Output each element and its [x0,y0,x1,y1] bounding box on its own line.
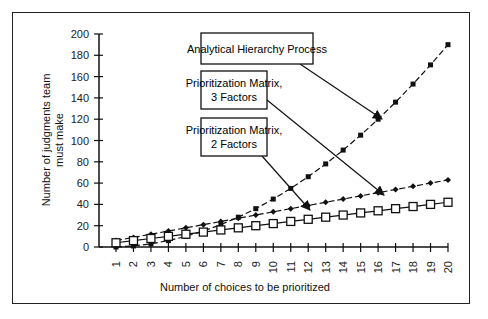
data-point [234,224,242,232]
data-point [270,209,276,215]
series-line [116,45,448,247]
x-axis-title: Number of choices to be prioritized [160,281,330,293]
y-axis: 020406080100120140160180200 [71,28,103,253]
data-point [323,199,329,205]
data-point [164,232,172,240]
data-point [409,203,417,211]
y-tick-label: 40 [77,198,89,210]
data-point [253,212,259,218]
data-point [199,228,207,236]
data-point [253,206,258,211]
x-tick-label: 16 [372,261,384,273]
x-tick-label: 10 [267,261,279,273]
y-tick-label: 180 [71,49,89,61]
series-ahp [114,42,451,249]
data-point [147,234,155,242]
data-point [392,205,400,213]
data-point [322,213,330,221]
data-point [340,196,346,202]
data-point [428,180,434,186]
data-point [445,177,451,183]
y-tick-label: 20 [77,220,89,232]
data-point [217,226,225,234]
data-point [182,230,190,238]
data-point [112,239,120,247]
y-tick-label: 200 [71,28,89,40]
callout-pm2: Prioritization Matrix,2 Factors [186,118,310,210]
data-point [411,82,416,87]
y-tick-label: 140 [71,92,89,104]
x-tick-label: 14 [337,261,349,273]
series-pm3 [113,177,451,244]
data-point [358,193,364,199]
data-point [444,198,452,206]
data-point [129,237,137,245]
x-tick-label: 17 [390,261,402,273]
data-point [306,174,311,179]
x-tick-label: 15 [355,261,367,273]
x-axis: 1234567891011121314151617181920 [99,243,454,273]
x-tick-label: 20 [442,261,454,273]
x-tick-label: 6 [197,261,209,267]
callout-label: Analytical Hierarchy Process [187,43,327,55]
data-point [358,133,363,138]
x-tick-label: 2 [127,261,139,267]
data-point [252,222,260,230]
x-tick-label: 19 [425,261,437,273]
x-tick-label: 7 [215,261,227,267]
x-tick-label: 12 [302,261,314,273]
data-point [269,220,277,228]
series-pm2 [112,198,452,246]
y-tick-label: 0 [83,241,89,253]
data-point [446,42,451,47]
data-point [410,183,416,189]
x-tick-label: 13 [320,261,332,273]
data-point [288,206,294,212]
line-chart: 0204060801001201401601802001234567891011… [0,0,488,319]
y-tick-label: 120 [71,113,89,125]
y-tick-label: 160 [71,71,89,83]
data-point [427,200,435,208]
x-tick-label: 8 [232,261,244,267]
arrow-icon [262,156,310,210]
x-tick-label: 18 [407,261,419,273]
data-point [393,100,398,105]
y-tick-label: 100 [71,135,89,147]
data-point [287,217,295,225]
x-tick-label: 4 [162,261,174,267]
data-point [393,186,399,192]
x-tick-label: 9 [250,261,262,267]
data-point [200,222,206,228]
data-point [374,207,382,215]
data-point [323,161,328,166]
arrow-icon [300,64,382,119]
data-point [304,215,312,223]
x-tick-label: 1 [110,261,122,267]
data-point [357,209,365,217]
data-point [339,211,347,219]
data-point [271,197,276,202]
data-point [341,148,346,153]
y-axis-title: Number of judgments teammust make [40,74,65,207]
x-tick-label: 5 [180,261,192,267]
y-tick-label: 80 [77,156,89,168]
data-point [428,62,433,67]
y-tick-label: 60 [77,177,89,189]
x-tick-label: 3 [145,261,157,267]
x-tick-label: 11 [285,261,297,272]
